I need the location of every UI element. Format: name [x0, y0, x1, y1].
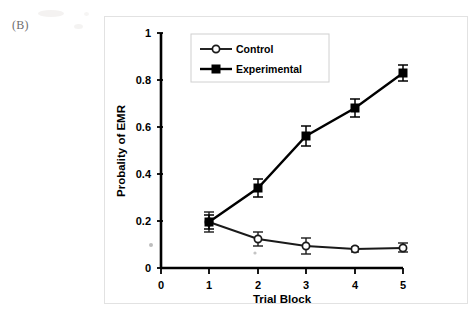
x-tick-label: 3	[303, 279, 309, 291]
chart-legend: Control Experimental	[191, 34, 329, 82]
scan-smudge	[74, 24, 83, 29]
chart-frame: 1 0.8 0.6 0.4 0.2 0 0 1 2 3 4 5 Trial Bl…	[104, 16, 468, 304]
filled-square-marker-icon	[212, 65, 221, 74]
data-point	[205, 218, 214, 227]
y-tick-label: 0.4	[136, 168, 152, 180]
x-axis-title: Trial Block	[253, 293, 312, 303]
data-point	[351, 104, 360, 113]
open-circle-marker-icon	[212, 45, 219, 52]
x-tick-labels: 0 1 2 3 4 5	[158, 279, 406, 291]
y-tick-label: 0.6	[136, 121, 151, 133]
data-points-control	[205, 218, 406, 252]
line-chart: 1 0.8 0.6 0.4 0.2 0 0 1 2 3 4 5 Trial Bl…	[105, 17, 467, 303]
data-point	[351, 245, 358, 252]
x-tick-label: 0	[158, 279, 164, 291]
data-point	[254, 235, 261, 242]
y-axis-title: Probality of EMR	[115, 104, 127, 197]
data-point	[399, 244, 406, 251]
x-tick-label: 2	[255, 279, 261, 291]
x-tick-label: 4	[352, 279, 359, 291]
x-tick-label: 5	[400, 279, 406, 291]
y-tick-label: 0.8	[136, 74, 151, 86]
series-experimental	[204, 65, 408, 229]
y-tick-label: 0	[145, 262, 151, 274]
series-control	[204, 212, 408, 254]
data-point	[399, 69, 408, 78]
scan-smudge	[84, 12, 89, 16]
stray-speck	[149, 243, 153, 247]
legend-label-experimental: Experimental	[236, 63, 302, 75]
x-tick-label: 1	[206, 279, 212, 291]
scan-smudge	[38, 10, 64, 17]
panel-label: (B)	[12, 18, 29, 33]
y-tick-label: 1	[145, 27, 151, 39]
stray-speck	[253, 251, 256, 254]
legend-item-experimental: Experimental	[200, 63, 302, 75]
legend-label-control: Control	[236, 43, 273, 55]
data-point	[302, 242, 309, 249]
data-point	[254, 184, 263, 193]
data-point	[302, 132, 311, 141]
y-tick-labels: 1 0.8 0.6 0.4 0.2 0	[136, 27, 152, 274]
figure-panel: (B)	[0, 0, 473, 328]
y-tick-label: 0.2	[136, 215, 151, 227]
